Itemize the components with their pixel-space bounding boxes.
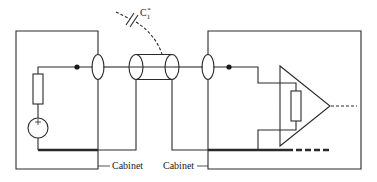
left-junction-dot: [74, 64, 79, 69]
source-resistor: [33, 74, 43, 104]
source-signal-wire: [38, 67, 93, 74]
right-junction-dot: [226, 64, 231, 69]
cabinet-label-right: Cabinet: [163, 160, 194, 171]
cable-shield-right-drain: [172, 80, 208, 150]
right-cabinet: [208, 31, 361, 169]
circuit-diagram: C1* Cabinet Cabinet: [0, 0, 377, 182]
cable-shield-left-drain: [98, 80, 136, 150]
differential-amplifier: [280, 66, 330, 146]
amp-input-resistor: [291, 91, 301, 121]
amp-input-wire-bottom: [258, 121, 296, 150]
capacitance-label: C1*: [140, 6, 151, 21]
amp-input-wire-top: [213, 67, 296, 91]
left-ferrite-bead: [92, 55, 104, 80]
cabinet-label-left: Cabinet: [112, 160, 143, 171]
left-cabinet: [16, 31, 98, 169]
stray-capacitance-lead: [116, 12, 162, 54]
right-ferrite-bead: [202, 55, 214, 80]
